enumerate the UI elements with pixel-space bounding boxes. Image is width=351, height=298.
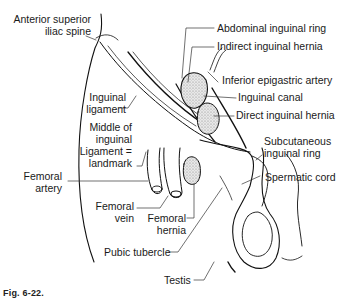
label-subcutaneous-inguinal-ring: Subcutaneous inguinal ring [264, 135, 331, 159]
leader-testis [194, 262, 214, 280]
direct-hernia-sac [197, 103, 219, 134]
label-indirect-inguinal-hernia: Indirect inguinal hernia [217, 40, 323, 52]
label-abdominal-inguinal-ring: Abdominal inguinal ring [217, 22, 326, 34]
spermatic-cord-outline [200, 140, 279, 268]
label-asis: Anterior superior iliac spine [6, 13, 91, 37]
label-inguinal-ligament: Inguinal ligament [70, 91, 126, 115]
testis-outline [242, 212, 272, 256]
leader-inguinal-canal [204, 96, 236, 98]
indirect-hernia-sac [181, 73, 207, 108]
figure-caption: Fig. 6-22. [3, 288, 44, 298]
label-spermatic-cord: Spermatic cord [265, 171, 336, 183]
label-middle-of-inguinal-ligament: Middle of inguinal Ligament = landmark [60, 121, 132, 169]
label-inferior-epigastric-artery: Inferior epigastric artery [222, 74, 332, 86]
label-femoral-vein: Femoral vein [88, 200, 134, 224]
leader-landmark [137, 152, 146, 166]
label-testis: Testis [164, 274, 191, 286]
label-femoral-artery: Femoral artery [4, 170, 62, 194]
label-direct-inguinal-hernia: Direct inguinal hernia [236, 109, 335, 121]
leader-inferior-epigastric [208, 72, 218, 82]
femoral-hernia-sac [183, 157, 200, 185]
label-femoral-hernia: Femoral hernia [138, 212, 186, 236]
leader-femoral-vein [137, 196, 168, 208]
leader-abdominal-ring [182, 28, 214, 78]
label-pubic-tubercle: Pubic tubercle [104, 246, 171, 258]
femoral-vein-vessel [164, 148, 182, 198]
label-inguinal-canal: Inguinal canal [238, 91, 303, 103]
leader-femoral-hernia [187, 184, 194, 218]
